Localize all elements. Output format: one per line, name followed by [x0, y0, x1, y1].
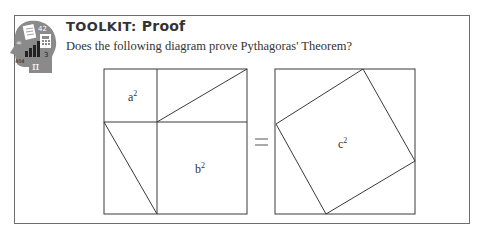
label-exponent: 2 [133, 89, 137, 98]
label-exponent: 2 [343, 136, 347, 145]
equals-sign [255, 139, 268, 145]
left-square [104, 69, 247, 214]
label-a-squared: a2 [128, 89, 137, 105]
label-c-squared: c2 [338, 136, 347, 152]
label-exponent: 2 [201, 161, 205, 170]
pythagoras-diagram [0, 0, 484, 233]
label-b-squared: b2 [195, 161, 205, 177]
